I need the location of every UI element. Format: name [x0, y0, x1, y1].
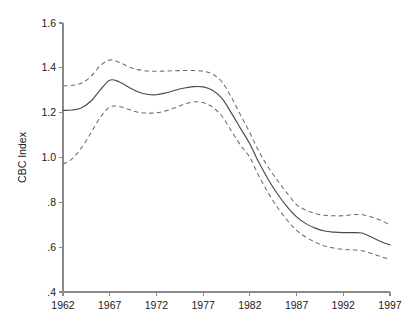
x-axis-tick-labels: 19621967197219771982198719921997	[51, 299, 402, 311]
y-axis-tick-labels: 1.61.41.21.0.8.6.4	[41, 17, 56, 298]
y-tick-label: .6	[47, 241, 56, 253]
x-tick-label: 1967	[98, 299, 122, 311]
lower-confidence-line	[63, 102, 390, 260]
y-axis-title-text: CBC Index	[16, 131, 28, 183]
upper-confidence-line	[63, 60, 390, 225]
x-tick-label: 1997	[378, 299, 402, 311]
y-tick-label: 1.0	[41, 151, 56, 163]
data-series	[63, 60, 390, 260]
y-axis-title: CBC Index	[16, 131, 28, 183]
axis-ticks	[59, 23, 390, 296]
axis-spine	[63, 23, 390, 292]
plot-area: 1.61.41.21.0.8.6.4 196219671972197719821…	[16, 17, 402, 311]
y-tick-label: 1.6	[41, 17, 56, 29]
y-tick-label: 1.2	[41, 106, 56, 118]
x-tick-label: 1987	[285, 299, 309, 311]
y-tick-label: .8	[47, 196, 56, 208]
cbc-index-line-chart: 1.61.41.21.0.8.6.4 196219671972197719821…	[0, 0, 408, 324]
x-tick-label: 1962	[51, 299, 75, 311]
axes	[63, 23, 390, 292]
chart-container: 1.61.41.21.0.8.6.4 196219671972197719821…	[0, 0, 408, 324]
x-tick-label: 1982	[238, 299, 262, 311]
y-tick-label: .4	[47, 286, 56, 298]
y-tick-label: 1.4	[41, 61, 56, 73]
x-tick-label: 1992	[332, 299, 356, 311]
x-tick-label: 1977	[191, 299, 215, 311]
center-estimate-line	[63, 80, 390, 245]
x-tick-label: 1972	[145, 299, 169, 311]
